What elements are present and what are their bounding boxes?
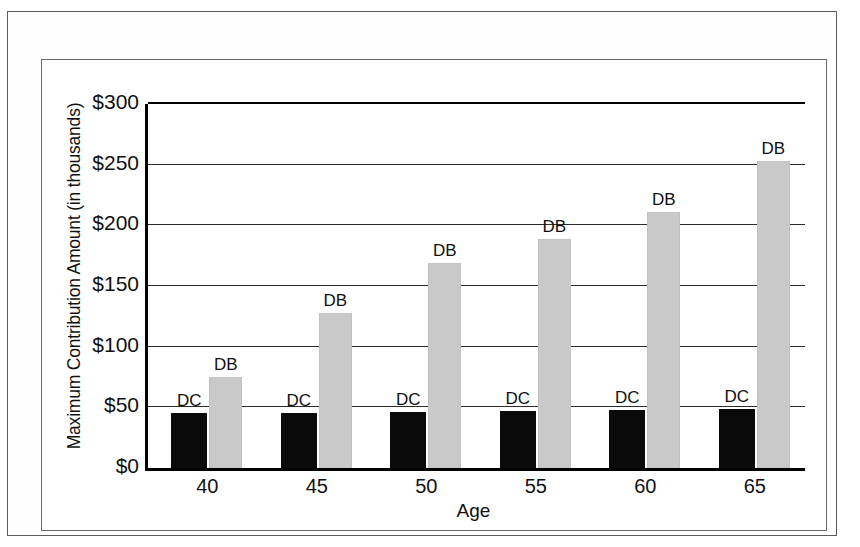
bar-group: DCDB40 bbox=[171, 104, 242, 468]
x-axis-tick-label-65: 65 bbox=[744, 475, 766, 498]
figure-inner-frame: Maximum Contribution Amount (in thousand… bbox=[41, 59, 827, 531]
bar-value-label: DB bbox=[761, 139, 785, 159]
bar-value-label: DB bbox=[323, 291, 347, 311]
bar-value-label: DB bbox=[542, 217, 566, 237]
x-axis-title: Age bbox=[145, 500, 802, 522]
bar-dc-age-55: DC bbox=[500, 411, 536, 468]
bar-db-age-65: DB bbox=[757, 161, 790, 468]
bar-value-label: DC bbox=[505, 389, 530, 409]
y-gridline: $250 bbox=[148, 164, 805, 165]
bar-value-label: DB bbox=[214, 355, 238, 375]
y-gridline: $300 bbox=[148, 102, 805, 104]
bar-group: DCDB50 bbox=[390, 104, 461, 468]
bar-chart: Maximum Contribution Amount (in thousand… bbox=[42, 60, 828, 532]
y-axis-tick-label: $150 bbox=[29, 272, 139, 296]
figure-outer-border: Maximum Contribution Amount (in thousand… bbox=[7, 11, 837, 536]
x-axis-tick-label-50: 50 bbox=[415, 475, 437, 498]
bar-db-age-40: DB bbox=[209, 377, 242, 468]
y-axis-tick-label: $100 bbox=[29, 332, 139, 356]
bar-dc-age-40: DC bbox=[171, 413, 207, 468]
bar-value-label: DC bbox=[177, 391, 202, 411]
bar-group: DCDB60 bbox=[609, 104, 680, 468]
bar-db-age-55: DB bbox=[538, 239, 571, 468]
bar-value-label: DC bbox=[396, 390, 421, 410]
bar-db-age-60: DB bbox=[647, 212, 680, 468]
y-axis-tick-label: $300 bbox=[29, 90, 139, 114]
y-gridline: $100 bbox=[148, 346, 805, 347]
y-axis-tick-label: $250 bbox=[29, 150, 139, 174]
bar-group: DCDB45 bbox=[281, 104, 352, 468]
bar-db-age-50: DB bbox=[428, 263, 461, 468]
y-axis-tick-label: $200 bbox=[29, 211, 139, 235]
y-axis-tick-label: $0 bbox=[29, 454, 139, 478]
bar-value-label: DC bbox=[724, 387, 749, 407]
plot-area: $300$250$200$150$100$50$0$0DCDB40DCDB45D… bbox=[145, 104, 805, 471]
bar-dc-age-45: DC bbox=[281, 413, 317, 468]
x-axis-tick-label-55: 55 bbox=[525, 475, 547, 498]
y-gridline: $50 bbox=[148, 406, 805, 407]
bar-group: DCDB65 bbox=[719, 104, 790, 468]
bar-value-label: DC bbox=[286, 391, 311, 411]
x-axis-tick-label-60: 60 bbox=[634, 475, 656, 498]
bar-dc-age-60: DC bbox=[609, 410, 645, 468]
x-axis-tick-label-40: 40 bbox=[196, 475, 218, 498]
bar-value-label: DB bbox=[652, 190, 676, 210]
bar-value-label: DC bbox=[615, 388, 640, 408]
bar-dc-age-50: DC bbox=[390, 412, 426, 468]
bar-value-label: DB bbox=[433, 241, 457, 261]
bar-db-age-45: DB bbox=[319, 313, 352, 468]
bar-group: DCDB55 bbox=[500, 104, 571, 468]
y-axis-tick-label: $50 bbox=[29, 393, 139, 417]
y-gridline: $150 bbox=[148, 285, 805, 286]
bar-dc-age-65: DC bbox=[719, 409, 755, 468]
x-axis-tick-label-45: 45 bbox=[306, 475, 328, 498]
y-gridline: $200 bbox=[148, 224, 805, 225]
